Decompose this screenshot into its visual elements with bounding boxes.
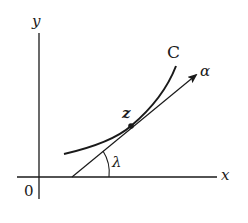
origin-label: 0 [24, 182, 34, 200]
tangent-vector [72, 75, 196, 177]
point-label: z [121, 104, 131, 122]
tangent-diagram: y x 0 C z α λ [0, 0, 248, 223]
angle-arc [103, 151, 109, 177]
curve-label: C [167, 42, 180, 62]
point-z [128, 123, 134, 129]
angle-label: λ [111, 153, 122, 171]
curve-c [64, 66, 176, 154]
x-axis-label: x [221, 166, 230, 184]
direction-label: α [200, 62, 210, 80]
y-axis-label: y [31, 12, 41, 30]
